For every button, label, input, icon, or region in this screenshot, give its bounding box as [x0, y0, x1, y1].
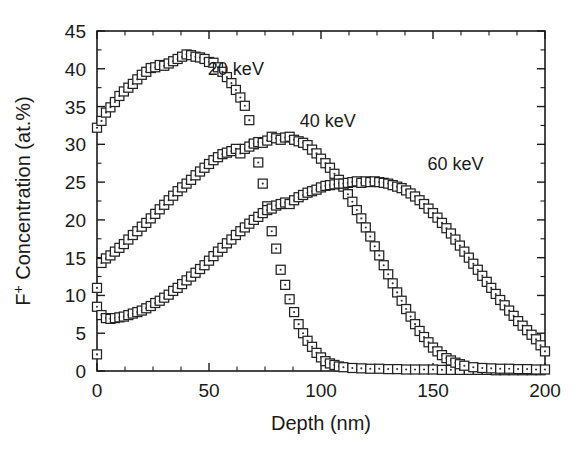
x-tick-label: 200 — [529, 380, 561, 401]
data-point — [388, 279, 397, 288]
y-tick-label: 35 — [65, 97, 86, 118]
data-point — [532, 365, 541, 374]
data-point — [541, 347, 550, 356]
concentration-depth-chart: 050100150200051015202530354045 20 keV40 … — [0, 0, 575, 458]
x-axis-title: Depth (nm) — [271, 412, 371, 434]
data-point — [97, 116, 106, 125]
data-point — [437, 365, 446, 374]
y-axis-title-superscript: + — [10, 285, 26, 293]
data-point — [245, 116, 254, 125]
data-point — [285, 295, 294, 304]
data-point — [290, 308, 299, 317]
data-point — [402, 365, 411, 374]
data-point — [93, 302, 102, 311]
data-point — [379, 261, 388, 270]
y-tick-label: 25 — [65, 172, 86, 193]
y-axis-title: F+ Concentration (at.%) — [10, 96, 34, 305]
data-series — [93, 350, 102, 359]
data-point — [258, 179, 267, 188]
y-tick-label: 0 — [75, 361, 86, 382]
y-axis-title-group: F+ Concentration (at.%) — [10, 96, 34, 305]
data-point — [276, 265, 285, 274]
y-tick-label: 30 — [65, 134, 86, 155]
data-point — [352, 206, 361, 215]
y-tick-label: 10 — [65, 285, 86, 306]
y-tick-label: 15 — [65, 248, 86, 269]
data-point — [541, 365, 550, 374]
data-point — [93, 350, 102, 359]
data-point — [236, 93, 245, 102]
series-annotation-label: 40 keV — [300, 111, 356, 131]
data-point — [294, 320, 303, 329]
data-point — [375, 251, 384, 260]
data-point — [514, 365, 523, 374]
y-axis-title-rest: Concentration (at.%) — [12, 96, 34, 285]
series-annotation-label: 60 keV — [427, 154, 483, 174]
data-point — [348, 197, 357, 206]
data-point — [384, 270, 393, 279]
data-point — [393, 365, 402, 374]
data-point — [397, 296, 406, 305]
data-point — [281, 280, 290, 289]
data-point — [93, 283, 102, 292]
data-point — [348, 363, 357, 372]
data-point — [429, 365, 438, 374]
figure-container: 050100150200051015202530354045 20 keV40 … — [0, 0, 575, 458]
x-tick-label: 150 — [417, 380, 449, 401]
y-tick-label: 45 — [65, 21, 86, 42]
data-point — [460, 361, 469, 370]
data-point — [357, 364, 366, 373]
data-point — [487, 364, 496, 373]
x-tick-label: 50 — [198, 380, 219, 401]
y-tick-label: 5 — [75, 323, 86, 344]
data-point — [384, 365, 393, 374]
data-series-layer — [93, 50, 550, 375]
data-point — [240, 101, 249, 110]
data-point — [272, 244, 281, 253]
data-point — [505, 364, 514, 373]
data-point — [267, 227, 276, 236]
x-tick-label: 0 — [92, 380, 103, 401]
series-annotation-label: 20 keV — [208, 59, 264, 79]
data-point — [496, 364, 505, 373]
x-tick-label: 100 — [305, 380, 337, 401]
data-point — [366, 364, 375, 373]
data-point — [375, 364, 384, 373]
data-point — [393, 288, 402, 297]
data-point — [478, 363, 487, 372]
data-point — [370, 242, 379, 251]
data-point — [469, 363, 478, 372]
data-point — [523, 365, 532, 374]
y-tick-label: 40 — [65, 59, 86, 80]
y-axis-title-base: F — [12, 293, 34, 305]
data-point — [339, 363, 348, 372]
y-tick-label: 20 — [65, 210, 86, 231]
data-point — [366, 232, 375, 241]
data-point — [361, 223, 370, 232]
data-point — [357, 214, 366, 223]
data-point — [411, 365, 420, 374]
data-point — [420, 365, 429, 374]
data-point — [254, 158, 263, 167]
